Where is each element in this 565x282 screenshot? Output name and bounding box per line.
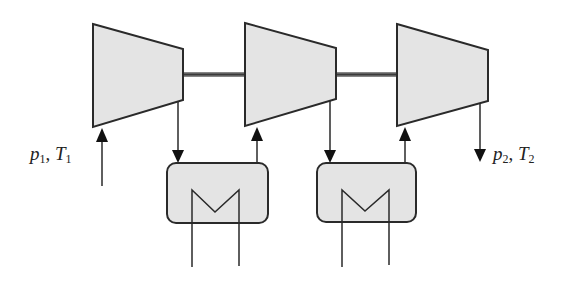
- inlet-arrow-icon: [96, 128, 108, 142]
- ic2-to-c3-arrow-icon: [399, 127, 411, 141]
- intercooler-2: [317, 163, 416, 267]
- c2-to-ic2-arrow-icon: [324, 150, 336, 163]
- inlet-state-label: p1, T1: [30, 143, 72, 167]
- outlet-arrow-icon: [474, 149, 486, 162]
- compressor-1: [93, 24, 183, 127]
- intercooler-1: [167, 163, 268, 267]
- shaft-2-3: [336, 72, 397, 77]
- c1-to-ic1-arrow-icon: [172, 150, 184, 163]
- compressor-intercooler-diagram: [0, 0, 565, 282]
- shaft-1-2: [183, 72, 245, 77]
- compressor-3: [397, 24, 488, 126]
- ic1-to-c2-arrow-icon: [251, 127, 263, 141]
- outlet-state-label: p2, T2: [493, 143, 535, 167]
- compressor-2: [245, 23, 336, 126]
